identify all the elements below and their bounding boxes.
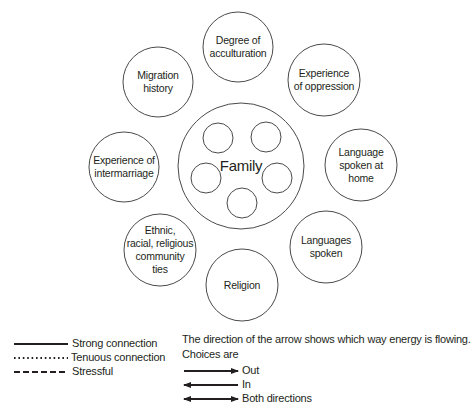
node-label-language-spoken-at-home: Language spoken at home [338, 146, 383, 185]
direction-intro-text: The direction of the arrow shows which w… [182, 333, 471, 346]
family-member-circle [262, 163, 292, 193]
node-label-experience-of-oppression: Experience of oppression [294, 67, 354, 93]
legend-label-strong: Strong connection [72, 337, 157, 350]
arrow-label-in: In [242, 378, 251, 391]
legend-label-stressful: Stressful [72, 365, 113, 378]
node-label-languages-spoken: Languages spoken [301, 234, 351, 260]
family-label: Family [220, 157, 262, 174]
node-label-migration-history: Migration history [137, 69, 178, 95]
family-member-circle [227, 188, 257, 218]
node-label-experience-of-intermarriage: Experience of intermarriage [93, 154, 155, 180]
node-label-degree-of-acculturation: Degree of acculturation [210, 34, 267, 60]
family-member-circle [191, 163, 221, 193]
family-member-circle [251, 122, 281, 152]
choices-label: Choices are [182, 348, 239, 361]
family-member-circle [203, 123, 233, 153]
legend-label-tenuous: Tenuous connection [71, 351, 165, 364]
node-label-religion: Religion [224, 279, 260, 292]
arrow-label-out: Out [242, 364, 259, 377]
arrow-label-both: Both directions [242, 392, 312, 405]
node-label-ethnic-community-ties: Ethnic, racial, religious community ties [127, 224, 194, 276]
